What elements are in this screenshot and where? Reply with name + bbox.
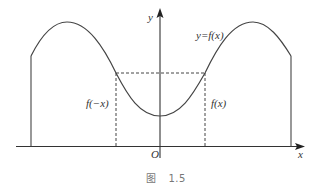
caption-prefix: 图	[146, 174, 157, 184]
caption-number: 1.5	[169, 174, 186, 184]
curve-y-equals-f-of-x	[31, 22, 291, 116]
origin-label: O	[151, 149, 159, 160]
x-axis-label: x	[298, 149, 303, 160]
curve-label: y=f(x)	[196, 30, 224, 41]
figure-caption: 图1.5	[146, 174, 186, 184]
f-of-negative-x-label: f(−x)	[86, 98, 109, 109]
y-axis-label: y	[148, 12, 153, 23]
even-function-figure: y x O y=f(x) f(−x) f(x) 图1.5	[0, 0, 322, 193]
f-of-x-label: f(x)	[211, 98, 226, 109]
function-graph	[0, 0, 322, 193]
